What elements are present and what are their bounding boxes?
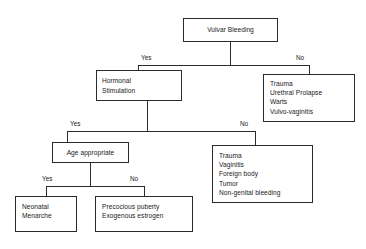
node-age-appropriate: Age appropriate (52, 142, 129, 163)
node-trauma-urethral-prolapse: Trauma Urethral Prolapse Warts Vulvo-vag… (263, 74, 355, 122)
label-level2-yes: Yes (70, 120, 80, 128)
node-neonatal-menarche: Neonatal Menarche (15, 196, 77, 232)
edge-level2-bus (67, 131, 256, 132)
edge-level1-bus (138, 65, 310, 66)
label-level2-no: No (240, 120, 248, 128)
edge-level3-bus (46, 186, 145, 187)
edge-level2-right-leg (255, 131, 256, 145)
label-level1-no: No (296, 54, 304, 62)
node-non-hormonal-causes: Trauma Vaginitis Foreign body Tumor Non-… (212, 145, 313, 203)
edge-root-stem (230, 42, 231, 65)
edge-level3-left-leg (46, 186, 47, 196)
label-level1-yes: Yes (141, 54, 151, 62)
label-level3-yes: Yes (42, 175, 52, 183)
label-level3-no: No (130, 175, 138, 183)
edge-hormonal-stem (147, 101, 148, 131)
node-vulvar-bleeding: Vulvar Bleeding (183, 18, 278, 42)
edge-age-appropriate-stem (90, 163, 91, 186)
edge-level3-right-leg (144, 186, 145, 196)
edge-level1-right-leg (309, 65, 310, 74)
node-hormonal-stimulation: Hormonal Stimulation (96, 70, 182, 101)
node-precocious-puberty: Precocious puberty Exogenous estrogen (95, 196, 193, 232)
edge-level2-left-leg (67, 131, 68, 142)
flowchart-canvas: Vulvar Bleeding Yes No Hormonal Stimulat… (0, 0, 366, 249)
